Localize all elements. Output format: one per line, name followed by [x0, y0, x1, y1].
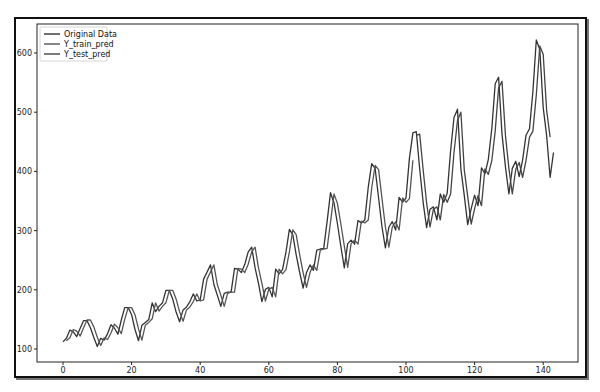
y-axis: 100200300400500600 — [17, 49, 37, 354]
line-chart: 100200300400500600 020406080100120140 Or… — [0, 0, 600, 392]
y-tick-label: 100 — [17, 345, 32, 354]
legend-label-original: Original Data — [64, 30, 117, 39]
y-tick-label: 200 — [17, 286, 32, 295]
y-tick-label: 500 — [17, 108, 32, 117]
y-tick-label: 400 — [17, 167, 32, 176]
plot-area — [37, 24, 578, 362]
x-tick-label: 100 — [398, 366, 413, 375]
y-tick-label: 300 — [17, 227, 32, 236]
y-tick-label: 600 — [17, 49, 32, 58]
x-tick-label: 140 — [536, 366, 551, 375]
legend-label-test: Y_test_pred — [63, 50, 110, 59]
x-tick-label: 0 — [60, 366, 65, 375]
x-tick-label: 40 — [195, 366, 205, 375]
x-tick-label: 20 — [127, 366, 137, 375]
legend: Original Data Y_train_pred Y_test_pred — [40, 27, 117, 61]
x-tick-label: 60 — [264, 366, 274, 375]
x-axis: 020406080100120140 — [60, 362, 550, 375]
x-tick-label: 120 — [467, 366, 482, 375]
x-tick-label: 80 — [332, 366, 342, 375]
legend-label-train: Y_train_pred — [63, 40, 114, 49]
